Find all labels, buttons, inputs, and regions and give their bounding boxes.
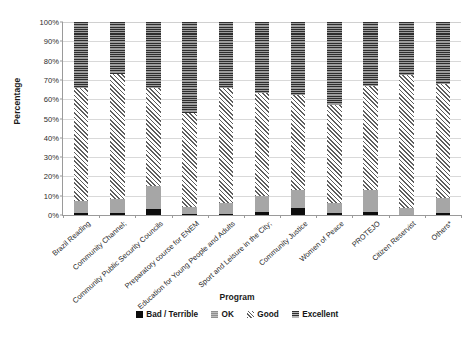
segment-excellent[interactable]: [74, 22, 89, 88]
stacked-bar[interactable]: [219, 22, 234, 215]
y-axis-title: Percentage: [12, 51, 22, 151]
segment-bad-terrible[interactable]: [182, 214, 197, 215]
bar-group[interactable]: [182, 22, 197, 215]
segment-bad-terrible[interactable]: [291, 208, 306, 215]
legend-item[interactable]: OK: [211, 310, 234, 319]
segment-excellent[interactable]: [363, 22, 378, 86]
segment-ok[interactable]: [436, 198, 451, 214]
plot-area: 0%10%20%30%40%50%60%70%80%90%100%: [62, 22, 461, 216]
bar-group[interactable]: [255, 22, 270, 215]
stacked-bar[interactable]: [399, 22, 414, 215]
stacked-bar-chart: Percentage 0%10%20%30%40%50%60%70%80%90%…: [0, 0, 474, 348]
bad-swatch-icon: [136, 311, 143, 318]
segment-good[interactable]: [363, 86, 378, 190]
segment-good[interactable]: [436, 84, 451, 198]
y-axis-tick-label: 30%: [44, 153, 59, 162]
segment-ok[interactable]: [182, 207, 197, 214]
x-axis-tick-mark: [244, 215, 245, 218]
segment-excellent[interactable]: [146, 22, 161, 88]
y-axis-tick-label: 60%: [44, 95, 59, 104]
bar-group[interactable]: [291, 22, 306, 215]
bar-group[interactable]: [74, 22, 89, 215]
segment-ok[interactable]: [399, 208, 414, 215]
stacked-bar[interactable]: [182, 22, 197, 215]
legend-item[interactable]: Bad / Terrible: [136, 310, 198, 319]
stacked-bar[interactable]: [110, 22, 125, 215]
segment-good[interactable]: [399, 75, 414, 208]
segment-good[interactable]: [291, 95, 306, 190]
x-axis-tick-mark: [389, 215, 390, 218]
legend-item[interactable]: Good: [247, 310, 279, 319]
bar-group[interactable]: [219, 22, 234, 215]
x-axis-title: Program: [0, 292, 474, 302]
legend-label: Bad / Terrible: [146, 310, 198, 319]
x-axis-tick-mark: [135, 215, 136, 218]
segment-ok[interactable]: [110, 199, 125, 213]
stacked-bar[interactable]: [436, 22, 451, 215]
segment-excellent[interactable]: [327, 22, 342, 105]
x-axis-tick-mark: [316, 215, 317, 218]
bars-layer: [63, 22, 461, 215]
bar-group[interactable]: [327, 22, 342, 215]
segment-bad-terrible[interactable]: [363, 212, 378, 215]
segment-excellent[interactable]: [399, 22, 414, 75]
y-axis-tick-label: 10%: [44, 191, 59, 200]
y-axis-tick-label: 50%: [44, 114, 59, 123]
segment-ok[interactable]: [327, 203, 342, 213]
segment-good[interactable]: [182, 113, 197, 207]
x-axis-tick-mark: [63, 215, 64, 218]
x-axis-tick-mark: [425, 215, 426, 218]
segment-excellent[interactable]: [182, 22, 197, 113]
segment-excellent[interactable]: [110, 22, 125, 74]
segment-good[interactable]: [110, 74, 125, 199]
y-axis-tick-label: 70%: [44, 75, 59, 84]
segment-excellent[interactable]: [436, 22, 451, 84]
segment-ok[interactable]: [291, 190, 306, 208]
segment-ok[interactable]: [146, 186, 161, 209]
bar-group[interactable]: [110, 22, 125, 215]
ok-swatch-icon: [211, 311, 218, 318]
gridline: [63, 215, 461, 216]
x-axis-tick-mark: [208, 215, 209, 218]
segment-ok[interactable]: [74, 201, 89, 214]
good-swatch-icon: [247, 311, 254, 318]
legend-label: OK: [222, 310, 234, 319]
segment-ok[interactable]: [255, 196, 270, 211]
bar-group[interactable]: [436, 22, 451, 215]
y-axis-tick-label: 100%: [40, 18, 59, 27]
x-axis-tick-label: Others*: [429, 219, 454, 242]
bar-group[interactable]: [363, 22, 378, 215]
segment-excellent[interactable]: [255, 22, 270, 93]
segment-excellent[interactable]: [219, 22, 234, 88]
segment-bad-terrible[interactable]: [110, 213, 125, 215]
legend-label: Good: [257, 310, 278, 319]
segment-good[interactable]: [255, 93, 270, 196]
segment-good[interactable]: [327, 105, 342, 203]
segment-bad-terrible[interactable]: [436, 213, 451, 215]
y-axis-tick-label: 20%: [44, 172, 59, 181]
y-axis-tick-label: 90%: [44, 37, 59, 46]
segment-bad-terrible[interactable]: [255, 212, 270, 215]
segment-bad-terrible[interactable]: [219, 214, 234, 215]
segment-excellent[interactable]: [291, 22, 306, 95]
stacked-bar[interactable]: [146, 22, 161, 215]
segment-good[interactable]: [74, 88, 89, 201]
segment-ok[interactable]: [363, 190, 378, 212]
segment-bad-terrible[interactable]: [74, 213, 89, 215]
stacked-bar[interactable]: [74, 22, 89, 215]
legend-item[interactable]: Excellent: [292, 310, 338, 319]
x-axis-tick-mark: [461, 215, 462, 218]
stacked-bar[interactable]: [363, 22, 378, 215]
stacked-bar[interactable]: [291, 22, 306, 215]
bar-group[interactable]: [146, 22, 161, 215]
bar-group[interactable]: [399, 22, 414, 215]
stacked-bar[interactable]: [327, 22, 342, 215]
stacked-bar[interactable]: [255, 22, 270, 215]
segment-bad-terrible[interactable]: [146, 209, 161, 215]
segment-bad-terrible[interactable]: [327, 213, 342, 215]
segment-ok[interactable]: [219, 203, 234, 214]
x-axis-tick-label: Sport and Leisure in the City;: [196, 219, 273, 289]
segment-good[interactable]: [146, 88, 161, 186]
y-axis-tick-label: 0%: [48, 211, 59, 220]
segment-good[interactable]: [219, 88, 234, 203]
